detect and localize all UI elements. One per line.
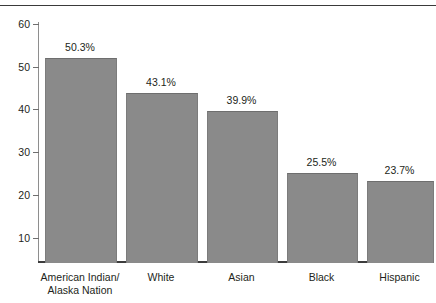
- plot-area: 10 20 30 40 50 60 50.3% 43.1% 39.9% 25.5…: [0, 0, 436, 303]
- bar-value-black: 25.5%: [287, 157, 356, 168]
- bar-black: [287, 173, 358, 263]
- y-tick-label-50: 50: [0, 62, 30, 72]
- category-label-asian: Asian: [207, 271, 276, 284]
- category-label-hispanic: Hispanic: [367, 271, 432, 284]
- bar-hispanic: [367, 181, 434, 263]
- y-tick-mark-50: [33, 67, 39, 68]
- y-tick-mark-10: [33, 238, 39, 239]
- category-label-white: White: [126, 271, 196, 284]
- category-label-black: Black: [287, 271, 356, 284]
- y-axis-line: [38, 22, 39, 263]
- bar-value-asian: 39.9%: [207, 95, 276, 106]
- y-tick-mark-20: [33, 195, 39, 196]
- y-tick-mark-30: [33, 152, 39, 153]
- bar-value-american-indian-alaska-nation: 50.3%: [45, 42, 115, 53]
- category-label-american-indian-alaska-nation: American Indian/ Alaska Nation: [28, 271, 132, 296]
- bar-american-indian-alaska-nation: [45, 58, 117, 263]
- bar-asian: [207, 111, 278, 263]
- bar-value-white: 43.1%: [126, 77, 196, 88]
- bar-chart-figure: 10 20 30 40 50 60 50.3% 43.1% 39.9% 25.5…: [0, 0, 436, 303]
- y-tick-label-20: 20: [0, 190, 30, 200]
- bar-white: [126, 93, 198, 263]
- y-tick-label-10: 10: [0, 233, 30, 243]
- bar-value-hispanic: 23.7%: [367, 165, 432, 176]
- y-tick-mark-40: [33, 109, 39, 110]
- y-tick-label-30: 30: [0, 147, 30, 157]
- y-tick-mark-60: [33, 24, 39, 25]
- y-tick-label-60: 60: [0, 19, 30, 29]
- y-tick-label-40: 40: [0, 104, 30, 114]
